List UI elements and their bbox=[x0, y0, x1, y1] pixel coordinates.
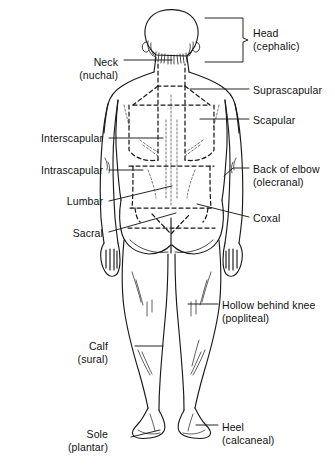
label-heel-latin: (calcaneal) bbox=[222, 434, 274, 447]
region-suprascapular-left bbox=[133, 86, 158, 105]
label-popliteal-common: Hollow behind knee bbox=[222, 299, 315, 312]
leg-shading bbox=[132, 272, 211, 375]
label-interscap-common: Interscapular bbox=[0, 132, 103, 145]
left-leg-outline bbox=[122, 240, 168, 410]
label-elbow: Back of elbow(olecranal) bbox=[253, 163, 320, 188]
region-midback-right bbox=[210, 166, 211, 208]
elbow-leader bbox=[224, 168, 249, 176]
label-heel-common: Heel bbox=[222, 421, 274, 434]
hair-shading bbox=[148, 41, 194, 64]
label-elbow-common: Back of elbow bbox=[253, 163, 320, 176]
label-calf: Calf(sural) bbox=[0, 340, 108, 365]
label-suprascap-common: Suprascapular bbox=[253, 84, 322, 97]
label-lumbar-common: Lumbar bbox=[0, 195, 103, 208]
label-head-latin: (cephalic) bbox=[253, 40, 300, 53]
right-leg-outline bbox=[175, 240, 221, 410]
label-neck: Neck(nuchal) bbox=[0, 56, 118, 81]
label-popliteal: Hollow behind knee(popliteal) bbox=[222, 299, 315, 324]
region-scapular-right bbox=[185, 105, 214, 161]
label-neck-common: Neck bbox=[0, 56, 118, 69]
label-head: Head(cephalic) bbox=[253, 27, 300, 52]
right-hand-outline bbox=[223, 243, 242, 276]
region-lumbar-right bbox=[203, 208, 208, 222]
region-lumbar-left bbox=[135, 208, 140, 222]
label-intrascap-common: Intrascapular bbox=[0, 164, 103, 177]
label-sole: Sole(plantar) bbox=[0, 428, 108, 453]
head-brace-leader bbox=[205, 18, 248, 62]
label-coxal-common: Coxal bbox=[253, 212, 280, 225]
label-neck-latin: (nuchal) bbox=[0, 69, 118, 82]
right-arm-outline bbox=[225, 100, 243, 243]
label-calf-latin: (sural) bbox=[0, 353, 108, 366]
label-coxal: Coxal bbox=[253, 212, 280, 225]
left-hand-outline bbox=[101, 243, 120, 276]
label-interscap: Interscapular bbox=[0, 132, 103, 145]
label-heel: Heel(calcaneal) bbox=[222, 421, 274, 446]
label-sole-common: Sole bbox=[0, 428, 108, 441]
label-popliteal-latin: (popliteal) bbox=[222, 312, 315, 325]
left-foot-outline bbox=[132, 408, 164, 438]
label-sacral: Sacral bbox=[0, 227, 103, 240]
region-nuchal bbox=[158, 64, 185, 86]
back-shading bbox=[124, 95, 219, 205]
label-head-common: Head bbox=[253, 27, 300, 40]
region-boundaries bbox=[128, 64, 215, 234]
right-foot-outline bbox=[178, 408, 210, 438]
label-suprascap: Suprascapular bbox=[253, 84, 322, 97]
label-sacral-common: Sacral bbox=[0, 227, 103, 240]
label-elbow-latin: (olecranal) bbox=[253, 176, 320, 189]
region-midback-left bbox=[132, 166, 133, 208]
torso-outline bbox=[104, 72, 239, 200]
region-scapular-left bbox=[129, 105, 158, 161]
label-scapular-common: Scapular bbox=[253, 114, 295, 127]
label-sole-latin: (plantar) bbox=[0, 441, 108, 454]
label-calf-common: Calf bbox=[0, 340, 108, 353]
label-lumbar: Lumbar bbox=[0, 195, 103, 208]
elbow-shading bbox=[105, 158, 236, 173]
label-scapular: Scapular bbox=[253, 114, 295, 127]
lumbar-leader bbox=[109, 186, 172, 201]
label-intrascap: Intrascapular bbox=[0, 164, 103, 177]
